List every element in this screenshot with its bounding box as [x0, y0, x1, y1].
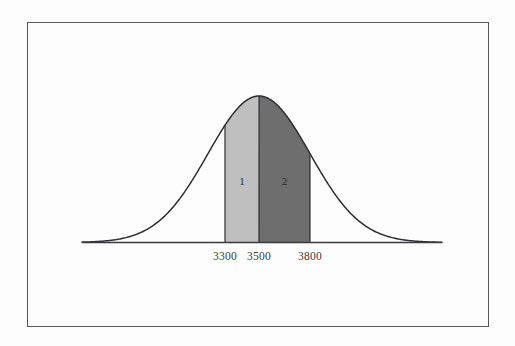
axis-tick-label-3500: 3500 [247, 250, 271, 262]
normal-distribution-chart [0, 0, 515, 346]
axis-tick-label-3800: 3800 [298, 250, 322, 262]
shaded-region-2 [259, 96, 310, 243]
shaded-region-2-label: 2 [282, 175, 288, 187]
figure-root: 3300 3500 3800 1 2 [0, 0, 515, 346]
axis-tick-label-3300: 3300 [213, 250, 237, 262]
shaded-region-2-group [259, 96, 310, 243]
shaded-region-1-label: 1 [239, 175, 245, 187]
